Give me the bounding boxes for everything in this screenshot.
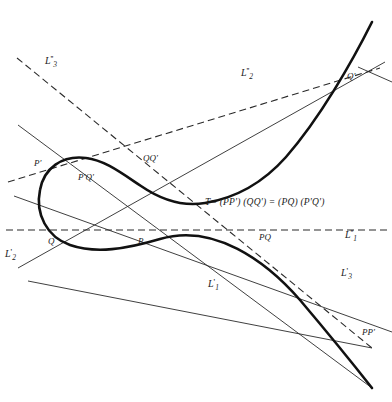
label-point-Q-prime: Q' (347, 72, 355, 81)
chord-P-P-prime-line (28, 281, 372, 348)
label-line-L2-prime: L'2 (5, 248, 16, 262)
label-line-L3-prime: L'3 (341, 267, 352, 281)
label-point-PQ: PQ (259, 233, 271, 242)
label-point-Q: Q (48, 237, 55, 246)
label-point-QQ-prime: QQ' (143, 154, 158, 163)
theorem-equation: T= (PP') (QQ') = (PQ) (P'Q') (205, 198, 325, 208)
line-label-subscript: 3 (348, 272, 352, 281)
label-line-L1-prime: L'1 (208, 278, 219, 292)
L2-double-prime-line (8, 68, 380, 182)
line-label-subscript: 1 (215, 283, 219, 292)
chord-Q-Q-prime-line (14, 196, 392, 332)
label-point-P: P (138, 237, 144, 246)
line-label-subscript: 3 (53, 60, 57, 69)
line-label-subscript: 2 (249, 72, 253, 81)
line-label-subscript: 2 (12, 253, 16, 262)
label-line-L3-double-prime: L''3 (45, 55, 57, 69)
label-point-P-prime-Q-prime: P'Q' (78, 173, 94, 182)
chord-P-prime-Q-prime-line (18, 125, 372, 388)
solid-line-group (14, 62, 392, 388)
diagram-svg (0, 0, 392, 402)
label-point-PP-prime: PP' (362, 328, 375, 337)
label-point-P-prime: P' (34, 159, 41, 168)
line-label-subscript: 1 (353, 234, 357, 243)
figure-canvas: P' P'Q' QQ' Q P PQ Q' PP' T= (PP') (QQ')… (0, 0, 392, 402)
label-line-L1-double-prime: L''1 (345, 229, 357, 243)
label-line-L2-double-prime: L''2 (241, 67, 253, 81)
